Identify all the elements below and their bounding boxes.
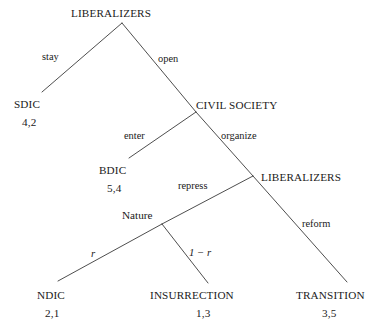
terminal-ndic: NDIC 2,1 [37, 289, 65, 319]
action-label-organize: organize [221, 130, 257, 141]
payoff-ndic: 2,1 [45, 307, 59, 319]
terminal-sdic: SDIC 4,2 [14, 98, 40, 128]
node-label-root-liberalizers: LIBERALIZERS [71, 7, 151, 19]
terminal-label-bdic: BDIC [99, 164, 126, 176]
edge-liberalizers-two-to-nature [162, 176, 253, 224]
terminal-label-ndic: NDIC [37, 289, 65, 301]
terminal-transition: TRANSITION 3,5 [296, 289, 365, 319]
action-label-reform: reform [302, 218, 330, 229]
terminal-label-sdic: SDIC [14, 98, 40, 110]
payoff-transition: 3,5 [322, 307, 337, 319]
action-label-open: open [158, 53, 179, 64]
game-tree-figure: LIBERALIZERS CIVIL SOCIETY LIBERALIZERS … [0, 0, 377, 329]
node-label-nature: Nature [122, 209, 152, 221]
action-labels-group: stay open enter organize repress reform [42, 51, 330, 229]
game-tree-canvas: LIBERALIZERS CIVIL SOCIETY LIBERALIZERS … [0, 0, 377, 329]
edge-root-to-civil-society [122, 23, 196, 112]
payoff-insurrection: 1,3 [196, 307, 211, 319]
action-label-repress: repress [178, 180, 207, 191]
node-label-liberalizers-two: LIBERALIZERS [261, 171, 341, 183]
edge-liberalizers-two-to-transition [253, 176, 347, 282]
edge-civil-society-to-liberalizers-two [196, 112, 253, 176]
terminal-insurrection: INSURRECTION 1,3 [150, 289, 234, 319]
probability-label-one-minus-r: 1 − r [189, 246, 212, 258]
terminal-bdic: BDIC 5,4 [99, 164, 126, 194]
edges-group [42, 23, 347, 283]
terminal-label-insurrection: INSURRECTION [150, 289, 234, 301]
terminal-label-transition: TRANSITION [296, 289, 365, 301]
node-label-civil-society: CIVIL SOCIETY [196, 99, 277, 111]
edge-nature-to-ndic [58, 224, 162, 281]
payoff-sdic: 4,2 [22, 116, 36, 128]
action-label-stay: stay [42, 51, 60, 62]
action-label-enter: enter [124, 130, 145, 141]
probability-label-r: r [91, 247, 96, 259]
payoff-bdic: 5,4 [107, 182, 122, 194]
